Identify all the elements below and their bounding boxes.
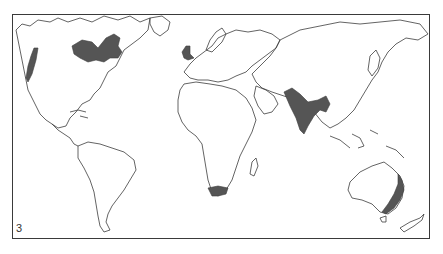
madagascar-outline — [250, 158, 258, 176]
shaded-region-pacific-northwest — [26, 48, 38, 82]
caribbean-outline — [70, 110, 88, 118]
europe-outline — [184, 30, 280, 82]
panel-label: 3 — [16, 222, 22, 234]
southeast-asia-islands-outline — [330, 130, 404, 158]
arabia-outline — [254, 86, 278, 114]
world-map — [0, 0, 443, 254]
new-zealand-outline — [400, 214, 424, 232]
shaded-region-eastern-australia — [382, 174, 404, 214]
south-america-outline — [78, 142, 136, 232]
central-america-outline — [52, 124, 78, 146]
shaded-region-british-isles — [182, 46, 194, 60]
greenland-outline — [150, 16, 170, 36]
shaded-region-south-africa — [208, 186, 228, 196]
shaded-region-eastern-canada — [72, 34, 122, 62]
africa-outline — [178, 82, 256, 196]
shaded-region-indian-subcontinent — [284, 88, 330, 134]
asia-outline — [252, 20, 428, 128]
tasmania-outline — [380, 216, 386, 222]
